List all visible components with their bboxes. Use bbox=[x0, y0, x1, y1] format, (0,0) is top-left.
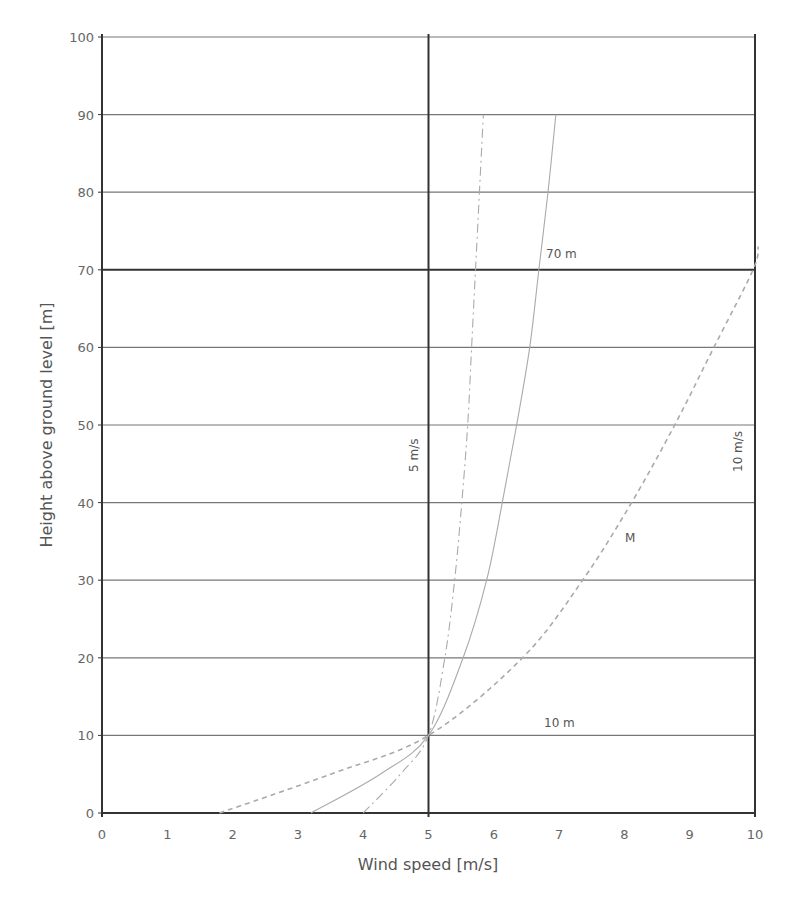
axis-ticks: 0102030405060708090100012345678910 bbox=[69, 30, 763, 842]
y-tick-label: 60 bbox=[77, 340, 94, 355]
annotation-10m: 10 m bbox=[544, 716, 575, 730]
x-axis-title: Wind speed [m/s] bbox=[358, 855, 499, 874]
y-tick-label: 80 bbox=[77, 185, 94, 200]
y-tick-label: 50 bbox=[77, 418, 94, 433]
curve-0 bbox=[363, 115, 483, 813]
x-tick-label: 4 bbox=[359, 827, 367, 842]
x-tick-label: 7 bbox=[555, 827, 563, 842]
y-tick-label: 100 bbox=[69, 30, 94, 45]
annotation-10ms: 10 m/s bbox=[731, 431, 745, 472]
wind-profile-chart: 0102030405060708090100012345678910 Wind … bbox=[0, 0, 796, 907]
wind-profile-curves bbox=[220, 115, 759, 813]
y-tick-label: 30 bbox=[77, 573, 94, 588]
y-tick-label: 20 bbox=[77, 651, 94, 666]
annotation-70m: 70 m bbox=[546, 247, 577, 261]
curve-1 bbox=[311, 115, 556, 813]
annotation-M-curve: M bbox=[625, 531, 635, 545]
y-tick-label: 0 bbox=[86, 806, 94, 821]
y-axis-title: Height above ground level [m] bbox=[37, 302, 56, 547]
y-tick-label: 10 bbox=[77, 728, 94, 743]
x-tick-label: 5 bbox=[424, 827, 432, 842]
x-tick-label: 1 bbox=[163, 827, 171, 842]
x-tick-label: 0 bbox=[98, 827, 106, 842]
x-tick-label: 3 bbox=[294, 827, 302, 842]
x-tick-label: 8 bbox=[620, 827, 628, 842]
x-tick-label: 9 bbox=[686, 827, 694, 842]
curve-2 bbox=[220, 247, 759, 813]
y-tick-label: 90 bbox=[77, 108, 94, 123]
grid-lines bbox=[102, 34, 755, 817]
x-tick-label: 2 bbox=[228, 827, 236, 842]
x-tick-label: 6 bbox=[490, 827, 498, 842]
y-tick-label: 40 bbox=[77, 496, 94, 511]
y-tick-label: 70 bbox=[77, 263, 94, 278]
x-tick-label: 10 bbox=[747, 827, 764, 842]
annotation-5ms: 5 m/s bbox=[407, 439, 421, 472]
